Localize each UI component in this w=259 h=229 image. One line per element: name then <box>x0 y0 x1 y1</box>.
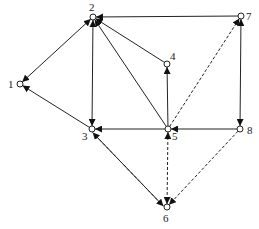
node-7 <box>238 13 244 19</box>
edge-5-2 <box>95 19 167 126</box>
node-label-1: 1 <box>8 78 14 90</box>
edge-4-2 <box>96 19 165 63</box>
edge-3-1 <box>23 86 90 128</box>
edge-3-6 <box>93 133 164 207</box>
edge-7-2 <box>96 16 238 17</box>
node-label-2: 2 <box>89 1 95 13</box>
graph-diagram: 12345678 <box>0 0 259 229</box>
node-label-5: 5 <box>172 130 178 142</box>
node-label-7: 7 <box>246 10 252 22</box>
edges <box>22 16 241 206</box>
node-label-6: 6 <box>163 212 169 224</box>
node-5 <box>165 126 171 132</box>
nodes: 12345678 <box>8 1 253 224</box>
edge-5-7 <box>170 19 240 127</box>
node-1 <box>17 81 23 87</box>
node-3 <box>89 126 95 132</box>
node-label-8: 8 <box>247 124 253 136</box>
node-8 <box>237 126 243 132</box>
edge-8-6 <box>169 131 238 205</box>
node-6 <box>164 204 170 210</box>
edge-5-6 <box>167 132 168 204</box>
edge-1-2 <box>22 19 91 82</box>
node-label-4: 4 <box>170 50 176 62</box>
node-2 <box>90 14 96 20</box>
node-label-3: 3 <box>82 130 88 142</box>
edge-3-2 <box>92 20 93 126</box>
edge-7-8 <box>240 19 241 126</box>
edge-5-4 <box>167 67 168 126</box>
